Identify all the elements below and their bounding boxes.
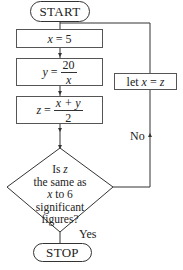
step-z-equals-average: z = x + y 2 (16, 96, 103, 124)
arrow-up-icon (148, 133, 152, 137)
step3-expression: z = (36, 104, 50, 116)
start-terminal: START (30, 1, 90, 22)
step3-fraction: x + y 2 (54, 97, 83, 124)
step2-expression: y = (42, 66, 57, 78)
step2-fraction: 20 x (61, 59, 77, 86)
arrow-down-icon (58, 53, 62, 57)
arrow-down-icon (58, 91, 62, 95)
step-y-equals-20-over-x: y = 20 x (16, 58, 103, 86)
step1-expression: x = 5 (47, 33, 71, 45)
arrow-down-icon (58, 128, 62, 132)
branch-no-label: No (130, 129, 145, 144)
branch-yes-label: Yes (79, 227, 96, 242)
decision-question: Is z the same as x to 6 significant figu… (20, 163, 100, 226)
loop-step-expression: let x = z (127, 76, 165, 88)
step-x-equals-5: x = 5 (16, 29, 103, 48)
start-label: START (40, 5, 81, 18)
arrow-down-icon (58, 145, 62, 149)
step-let-x-equal-z: let x = z (114, 73, 177, 90)
stop-terminal: STOP (33, 243, 92, 262)
stop-label: STOP (46, 246, 79, 259)
